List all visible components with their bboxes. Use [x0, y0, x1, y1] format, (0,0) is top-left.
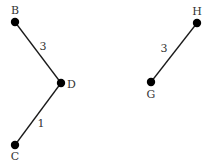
node-c [11, 141, 19, 149]
node-label-g: G [147, 88, 156, 101]
edge-d-c [15, 83, 61, 145]
edge-g-h [151, 23, 197, 82]
edge-b-d [15, 22, 61, 83]
graph-diagram: 313 BDCHG [0, 0, 206, 165]
edge-weight-label: 3 [40, 40, 47, 53]
node-label-h: H [192, 5, 202, 18]
edge-weight-label: 1 [38, 117, 45, 130]
node-label-d: D [67, 78, 76, 91]
node-g [147, 78, 155, 86]
node-labels-group: BDCHG [11, 4, 202, 163]
node-label-b: B [11, 4, 19, 17]
edge-weight-label: 3 [161, 42, 168, 55]
node-label-c: C [11, 150, 19, 163]
node-b [11, 18, 19, 26]
edge-labels-group: 313 [38, 40, 168, 130]
node-d [57, 79, 65, 87]
node-h [193, 19, 201, 27]
